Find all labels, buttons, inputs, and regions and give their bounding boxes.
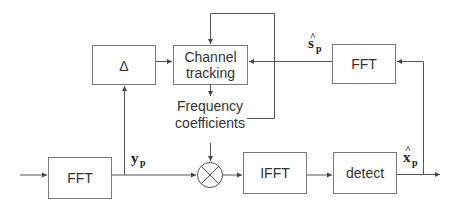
fft-feedback-label: FFT: [351, 56, 377, 72]
ifft-block: IFFT: [244, 153, 307, 194]
delta-label: Δ: [119, 58, 128, 74]
svg-text:p: p: [316, 43, 322, 54]
channel-tracking-block: Channel tracking: [174, 46, 248, 85]
yp-label: y p: [131, 150, 146, 168]
channel-tracking-label-1: Channel: [184, 49, 236, 65]
delta-block: Δ: [93, 46, 156, 85]
block-diagram: Δ Channel tracking FFT FFT IFFT detect F…: [0, 0, 455, 210]
detect-block: detect: [334, 153, 397, 194]
detect-label: detect: [346, 165, 384, 181]
ifft-label: IFFT: [260, 165, 290, 181]
channel-tracking-label-2: tracking: [186, 65, 235, 81]
frequency-coefficients-label-1: Frequency: [177, 98, 243, 114]
fft-input-block: FFT: [49, 158, 112, 199]
fft-input-label: FFT: [67, 170, 93, 186]
svg-text:^: ^: [310, 31, 316, 42]
frequency-coefficients-label-2: coefficients: [175, 115, 245, 131]
fft-feedback-block: FFT: [333, 45, 396, 84]
svg-text:y: y: [131, 150, 139, 166]
svg-text:p: p: [140, 157, 146, 168]
svg-text:^: ^: [405, 144, 411, 155]
svg-text:p: p: [412, 157, 418, 168]
s-hat-p-label: s ^ p: [308, 31, 322, 54]
x-hat-p-label: x ^ p: [403, 144, 418, 168]
multiplier-node: [198, 163, 223, 188]
